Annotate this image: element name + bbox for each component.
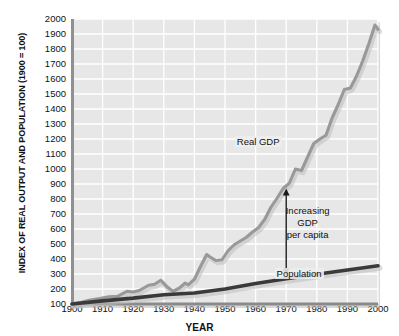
annotation-population-text: Population (275, 268, 324, 279)
annotation-population: Population (275, 268, 324, 279)
annotation-increasing-gdp-per-capita: Increasing GDP per capita (286, 205, 330, 241)
annotation-real-gdp-text: Real GDP (235, 136, 282, 147)
annotation-percap-line-2: GDP (286, 217, 330, 229)
annotation-real-gdp: Real GDP (235, 136, 282, 147)
annotation-percap-line-1: Increasing (286, 205, 330, 217)
annotation-percap-line-3: per capita (286, 229, 330, 241)
chart-figure: INDEX OF REAL OUTPUT AND POPULATION (190… (0, 0, 399, 336)
chart-plot-area (0, 0, 399, 336)
